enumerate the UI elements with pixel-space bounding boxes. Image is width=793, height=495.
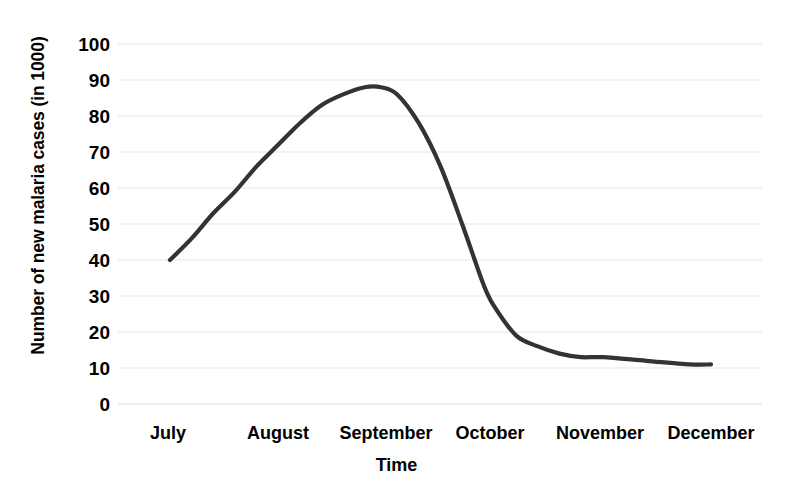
- gridlines: [118, 44, 762, 404]
- chart-figure: Number of new malaria cases (in 1000) 10…: [0, 0, 793, 495]
- series-line-new-malaria-cases: [170, 86, 711, 364]
- x-tick-label-september: September: [339, 424, 432, 442]
- x-tick-label-december: December: [667, 424, 754, 442]
- plot-area: [0, 0, 793, 495]
- x-axis-title: Time: [0, 455, 793, 476]
- x-tick-label-august: August: [247, 424, 309, 442]
- x-tick-label-july: July: [150, 424, 186, 442]
- x-tick-label-october: October: [455, 424, 524, 442]
- x-tick-label-november: November: [556, 424, 644, 442]
